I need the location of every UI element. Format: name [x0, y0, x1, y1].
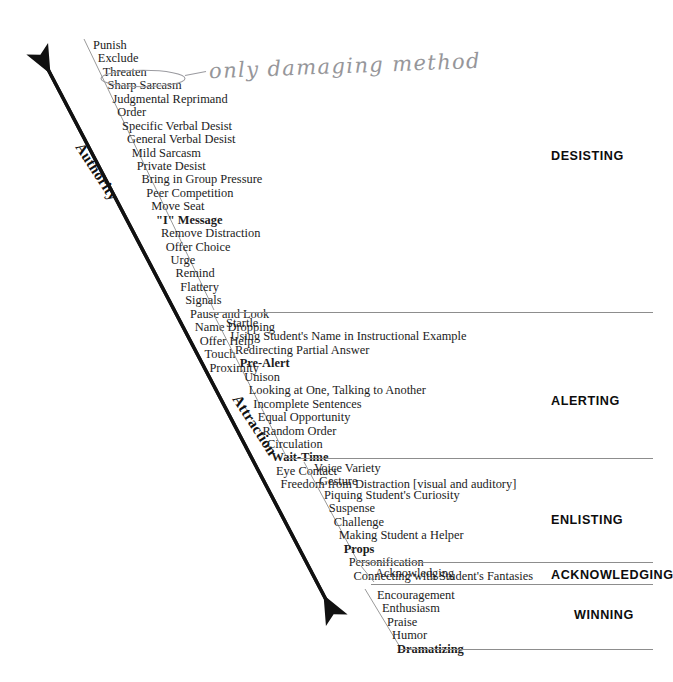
- category-label-enlisting: ENLISTING: [551, 513, 623, 527]
- category-label-alerting: ALERTING: [551, 394, 620, 408]
- technique-item: Unison: [226, 371, 516, 384]
- technique-item: Props: [314, 543, 533, 556]
- technique-item: "I" Message: [93, 214, 275, 227]
- category-label-winning: WINNING: [574, 608, 634, 622]
- section-baseline: [212, 312, 653, 313]
- technique-item: Specific Verbal Desist: [93, 120, 275, 133]
- technique-item: General Verbal Desist: [93, 133, 275, 146]
- enlisting-item-list: Voice VarietyGesturePiquing Student's Cu…: [314, 462, 533, 583]
- technique-item: Order: [93, 106, 275, 119]
- technique-item: Humor: [377, 629, 464, 642]
- technique-item: Random Order: [226, 425, 516, 438]
- technique-item: Suspense: [314, 502, 533, 515]
- technique-item: Pre-Alert: [226, 357, 516, 370]
- acknowledging-item-list: Acknowledging: [375, 567, 454, 580]
- section-baseline: [400, 649, 653, 650]
- technique-item: Startle: [226, 317, 516, 330]
- technique-item: Urge: [93, 254, 275, 267]
- section-baseline: [371, 584, 653, 585]
- technique-item: Voice Variety: [314, 462, 533, 475]
- technique-item: Flattery: [93, 281, 275, 294]
- technique-item: Mild Sarcasm: [93, 147, 275, 160]
- section-baseline: [285, 458, 653, 459]
- technique-item: Praise: [377, 616, 464, 629]
- technique-item: Challenge: [314, 516, 533, 529]
- technique-item: Equal Opportunity: [226, 411, 516, 424]
- category-label-acknowledging: ACKNOWLEDGING: [551, 568, 673, 582]
- influence-hierarchy-diagram: Authority Attraction PunishExcludeThreat…: [0, 0, 673, 682]
- technique-item: Move Seat: [93, 200, 275, 213]
- technique-item: Offer Choice: [93, 241, 275, 254]
- technique-item: Gesture: [314, 475, 533, 488]
- technique-item: Peer Competition: [93, 187, 275, 200]
- technique-item: Enthusiasm: [377, 602, 464, 615]
- technique-item: Making Student a Helper: [314, 529, 533, 542]
- section-baseline: [356, 562, 653, 563]
- technique-item: Encouragement: [377, 589, 464, 602]
- technique-item: Redirecting Partial Answer: [226, 344, 516, 357]
- category-label-desisting: DESISTING: [551, 149, 624, 163]
- technique-item: Remove Distraction: [93, 227, 275, 240]
- technique-item: Bring in Group Pressure: [93, 173, 275, 186]
- technique-item: Judgmental Reprimand: [93, 93, 275, 106]
- technique-item: Looking at One, Talking to Another: [226, 384, 516, 397]
- technique-item: Punish: [93, 39, 275, 52]
- winning-item-list: EncouragementEnthusiasmPraiseHumorDramat…: [377, 589, 464, 656]
- technique-item: Using Student's Name in Instructional Ex…: [226, 330, 516, 343]
- technique-item: Circulation: [226, 438, 516, 451]
- technique-item: Remind: [93, 267, 275, 280]
- technique-item: Acknowledging: [375, 567, 454, 580]
- technique-item: Private Desist: [93, 160, 275, 173]
- technique-item: Signals: [93, 294, 275, 307]
- technique-item: Incomplete Sentences: [226, 398, 516, 411]
- technique-item: Piquing Student's Curiosity: [314, 489, 533, 502]
